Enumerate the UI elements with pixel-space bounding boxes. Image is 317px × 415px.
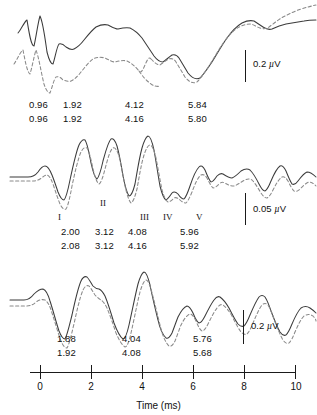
wave-label-III: III [140,212,149,222]
panel-bottom: 1.88 4.04 5.76 1.92 4.08 5.68 0.2 µV [0,255,317,360]
axis-ticklabel-10: 10 [290,381,301,392]
latency-value: 5.76 [193,333,212,344]
scale-bar-line [245,193,246,225]
latency-value: 2.08 [61,240,80,251]
latency-value: 3.12 [95,240,114,251]
scale-bar-label: 0.2 µV [253,58,281,69]
latency-value: 1.92 [63,113,82,124]
axis-tick-0 [40,365,41,379]
wave-label-IV: IV [163,212,173,222]
latency-value: 4.16 [128,240,147,251]
axis-tick-10 [295,365,296,379]
axis-tick-8 [244,365,245,379]
axis-ticklabel-6: 6 [190,381,196,392]
wave-label-I: I [58,212,61,222]
latency-value: 2.00 [61,226,80,237]
axis-line [30,372,295,373]
latency-value: 5.68 [193,347,212,358]
axis-ticklabel-8: 8 [241,381,247,392]
scale-bar-line [243,310,244,344]
latency-value: 4.16 [125,113,144,124]
axis-ticklabel-0: 0 [37,381,43,392]
panel-middle: I II III IV V 2.00 3.12 4.08 5.96 2.08 3… [0,130,317,255]
latency-value: 1.88 [57,333,76,344]
wave-label-V: V [196,212,203,222]
latency-value: 5.80 [188,113,207,124]
axis-title: Time (ms) [0,400,317,411]
latency-value: 4.08 [128,226,147,237]
latency-value: 0.96 [29,99,48,110]
axis-ticklabel-2: 2 [88,381,94,392]
wave-label-II: II [100,198,106,208]
latency-value: 4.08 [122,347,141,358]
latency-value: 1.92 [63,99,82,110]
axis-ticklabel-4: 4 [139,381,145,392]
panel-top: 0.96 1.92 4.12 5.84 0.96 1.92 4.16 5.80 … [0,0,317,130]
latency-value: 0.96 [29,113,48,124]
latency-value: 4.04 [122,333,141,344]
latency-value: 5.84 [188,99,207,110]
scale-bar-line [245,50,246,82]
axis-tick-6 [193,365,194,379]
scale-bar-label: 0.2 µV [251,320,279,331]
latency-value: 3.12 [95,226,114,237]
latency-value: 1.92 [57,347,76,358]
time-axis: 0 2 4 6 8 10 Time (ms) [0,360,317,415]
axis-tick-4 [142,365,143,379]
abr-figure: 0.96 1.92 4.12 5.84 0.96 1.92 4.16 5.80 … [0,0,317,415]
latency-value: 5.96 [180,226,199,237]
axis-tick-2 [91,365,92,379]
scale-bar-label: 0.05 µV [253,203,286,214]
latency-value: 5.92 [180,240,199,251]
latency-value: 4.12 [125,99,144,110]
